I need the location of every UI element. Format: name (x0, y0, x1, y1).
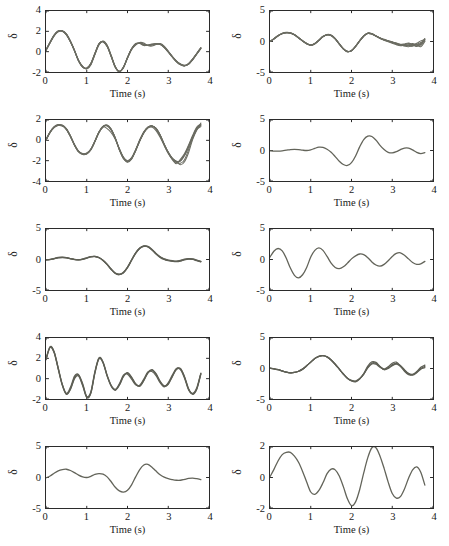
x-tick-label: 0 (259, 75, 279, 86)
x-tick-label: 4 (200, 511, 220, 522)
x-tick-label: 1 (300, 75, 320, 86)
x-tick-label: 0 (35, 402, 55, 413)
axes-frame (269, 446, 434, 509)
x-tick-label: 4 (424, 184, 444, 195)
x-tick-label: 0 (259, 511, 279, 522)
x-axis-label: Time (s) (269, 88, 434, 99)
axes-frame (45, 446, 210, 509)
x-tick-label: 3 (383, 184, 403, 195)
y-tick-label: 5 (15, 441, 41, 452)
x-tick-label: 1 (300, 293, 320, 304)
x-axis-label: Time (s) (45, 415, 210, 426)
x-tick-label: 0 (35, 511, 55, 522)
y-axis-label: δ (7, 352, 19, 374)
x-tick-label: 3 (383, 402, 403, 413)
x-tick-label: 1 (76, 75, 96, 86)
axes-frame (45, 10, 210, 73)
y-axis-label: δ (231, 461, 243, 483)
x-tick-label: 3 (383, 511, 403, 522)
x-tick-label: 2 (342, 184, 362, 195)
y-tick-label: 0 (15, 374, 41, 385)
y-tick-label: 5 (239, 223, 265, 234)
axes-frame (269, 119, 434, 182)
axes-frame (45, 228, 210, 291)
x-tick-label: 1 (76, 184, 96, 195)
y-tick-label: 5 (239, 114, 265, 125)
x-tick-label: 2 (118, 402, 138, 413)
y-tick-label: 4 (15, 332, 41, 343)
x-tick-label: 0 (259, 184, 279, 195)
x-tick-label: 4 (424, 75, 444, 86)
axes-frame (45, 119, 210, 182)
x-tick-label: 2 (118, 511, 138, 522)
plot-panel-panel-r2c2: 50-501234Time (s)δ (224, 109, 448, 218)
x-tick-label: 3 (383, 75, 403, 86)
x-tick-label: 4 (200, 184, 220, 195)
y-tick-label: 2 (239, 441, 265, 452)
plot-panel-panel-r1c2: 50-501234Time (s)δ (224, 0, 448, 109)
x-axis-label: Time (s) (45, 197, 210, 208)
x-tick-label: 3 (159, 402, 179, 413)
plot-panel-panel-r1c1: 420-201234Time (s)δ (0, 0, 224, 109)
x-axis-label: Time (s) (269, 197, 434, 208)
x-tick-label: 4 (424, 511, 444, 522)
plot-panel-panel-r2c1: 20-2-401234Time (s)δ (0, 109, 224, 218)
x-axis-label: Time (s) (269, 415, 434, 426)
x-axis-label: Time (s) (45, 306, 210, 317)
x-tick-label: 0 (35, 293, 55, 304)
y-axis-label: δ (7, 243, 19, 265)
x-axis-label: Time (s) (269, 524, 434, 535)
y-tick-label: 0 (15, 47, 41, 58)
axes-frame (269, 228, 434, 291)
plot-panel-panel-r5c2: 20-201234Time (s)δ (224, 436, 448, 545)
x-tick-label: 1 (76, 402, 96, 413)
y-tick-label: -2 (15, 156, 41, 167)
plot-panel-panel-r3c1: 50-501234Time (s)δ (0, 218, 224, 327)
x-tick-label: 4 (424, 402, 444, 413)
y-axis-label: δ (231, 243, 243, 265)
y-tick-label: 5 (239, 5, 265, 16)
y-tick-label: 5 (239, 332, 265, 343)
y-tick-label: 4 (15, 5, 41, 16)
x-tick-label: 2 (342, 402, 362, 413)
x-tick-label: 3 (383, 293, 403, 304)
x-tick-label: 1 (300, 402, 320, 413)
axes-frame (269, 337, 434, 400)
y-axis-label: δ (231, 352, 243, 374)
y-tick-label: 2 (15, 114, 41, 125)
y-axis-label: δ (7, 461, 19, 483)
x-tick-label: 4 (424, 293, 444, 304)
x-axis-label: Time (s) (269, 306, 434, 317)
plot-panel-panel-r5c1: 50-501234Time (s)δ (0, 436, 224, 545)
x-tick-label: 1 (76, 511, 96, 522)
x-tick-label: 1 (76, 293, 96, 304)
x-tick-label: 2 (118, 75, 138, 86)
x-tick-label: 4 (200, 402, 220, 413)
x-tick-label: 0 (35, 75, 55, 86)
x-tick-label: 1 (300, 184, 320, 195)
plot-panel-panel-r4c2: 50-501234Time (s)δ (224, 327, 448, 436)
x-tick-label: 3 (159, 511, 179, 522)
y-tick-label: 5 (15, 223, 41, 234)
axes-frame (45, 337, 210, 400)
x-tick-label: 3 (159, 293, 179, 304)
plot-panel-panel-r4c1: 420-201234Time (s)δ (0, 327, 224, 436)
x-tick-label: 2 (342, 75, 362, 86)
x-tick-label: 0 (35, 184, 55, 195)
x-tick-label: 1 (300, 511, 320, 522)
x-tick-label: 2 (118, 293, 138, 304)
figure-grid: 420-201234Time (s)δ50-501234Time (s)δ20-… (0, 0, 449, 546)
x-tick-label: 3 (159, 184, 179, 195)
x-tick-label: 0 (259, 402, 279, 413)
x-tick-label: 2 (118, 184, 138, 195)
y-axis-label: δ (7, 25, 19, 47)
x-tick-label: 2 (342, 293, 362, 304)
x-axis-label: Time (s) (45, 524, 210, 535)
x-axis-label: Time (s) (45, 88, 210, 99)
x-tick-label: 3 (159, 75, 179, 86)
y-axis-label: δ (7, 134, 19, 156)
x-tick-label: 4 (200, 293, 220, 304)
plot-panel-panel-r3c2: 50-501234Time (s)δ (224, 218, 448, 327)
axes-frame (269, 10, 434, 73)
x-tick-label: 0 (259, 293, 279, 304)
